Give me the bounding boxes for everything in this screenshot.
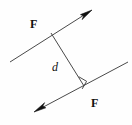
force-label-top: F (30, 18, 37, 30)
diagram-canvas (0, 0, 132, 125)
distance-label: d (52, 61, 58, 73)
force-vector-top-line (10, 12, 89, 62)
force-label-bottom: F (91, 97, 98, 109)
arrowhead-up-right-icon (81, 10, 93, 20)
arrowhead-down-left-icon (34, 103, 46, 112)
force-couple-diagram: F F d (0, 0, 132, 125)
